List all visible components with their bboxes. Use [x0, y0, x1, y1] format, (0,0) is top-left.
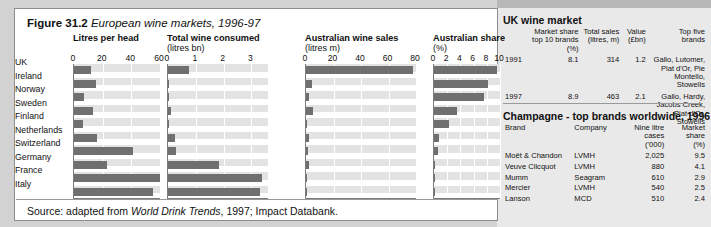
bar: [168, 66, 189, 74]
column-header: Nine litre cases('000): [613, 124, 666, 149]
axis-tick-label: 8: [483, 53, 488, 63]
axis-tick-label: 20: [328, 53, 338, 63]
row-stripe: [434, 153, 500, 159]
gridline: [160, 64, 161, 199]
bar: [306, 107, 313, 115]
figure-title: Figure 31.2 European wine markets, 1996-…: [27, 17, 260, 29]
uk-table-title: UK wine market: [503, 14, 707, 26]
table-row: MercierLVMH5402.5: [503, 182, 707, 193]
cases-cell: 610: [613, 171, 666, 182]
table-header-row: Brand Company Nine litre cases('000)Mark…: [503, 124, 707, 149]
bar: [434, 147, 438, 155]
bar: [434, 80, 488, 88]
row-stripe: [306, 139, 416, 145]
column-header: Market sharetop 10 brands (%): [525, 28, 580, 53]
chart-title: Australian wine sales: [305, 33, 421, 43]
bar: [74, 147, 133, 155]
table-divider: [503, 103, 703, 104]
bar: [168, 80, 169, 88]
bar: [434, 66, 497, 74]
bar: [168, 107, 171, 115]
row-stripe: [434, 180, 500, 186]
row-stripe: [306, 126, 416, 132]
chart-title: Total wine consumed: [167, 33, 273, 43]
bar: [434, 174, 435, 182]
column-header: Value(£bn): [621, 28, 648, 53]
top-strip: [497, 0, 711, 8]
champagne-table-title: Champagne - top brands worldwide, 1996: [503, 110, 707, 122]
brand-cell: Veuve Clicquot: [503, 160, 572, 171]
figure-number: Figure 31.2: [27, 17, 88, 29]
figure-page: Figure 31.2 European wine markets, 1996-…: [0, 0, 711, 227]
company-cell: MCD: [572, 193, 613, 204]
row-stripe: [434, 139, 500, 145]
chart-australian-wine-sales: Australian wine sales(litres m)020406080: [305, 33, 421, 199]
bar: [306, 66, 413, 74]
column-header-line1: Nine litre cases: [615, 124, 664, 141]
company-cell: LVMH: [572, 160, 613, 171]
axis-tick-label: 60: [154, 53, 164, 63]
country-label: Netherlands: [15, 124, 59, 138]
table-row: Moët & ChandonLVMH2,0259.5: [503, 149, 707, 160]
table-row: Veuve ClicquotLVMH8804.1: [503, 160, 707, 171]
plot-area: [433, 64, 500, 199]
share-cell: 9.5: [666, 149, 707, 160]
column-header: Brand: [503, 124, 572, 149]
top-brands-cell: Gallo, Lutomer, Piat d'Or, Pie Montello,…: [648, 53, 707, 90]
source-prefix: Source: adapted from: [27, 205, 131, 217]
row-stripe: [168, 99, 268, 105]
bar: [74, 161, 107, 169]
bar: [74, 93, 84, 101]
source-note: Source: adapted from World Drink Trends,…: [27, 205, 338, 217]
axis-tick-label: 0: [71, 53, 76, 63]
column-header-line2: (£bn): [623, 36, 646, 44]
table-header-row: Market sharetop 10 brands (%)Total sales…: [503, 28, 707, 53]
column-header-line1: Brand: [505, 124, 570, 132]
table-row: LansonMCD5102.4: [503, 193, 707, 204]
brand-cell: Lanson: [503, 193, 572, 204]
chart-subtitle: (litres m): [305, 43, 421, 53]
chart-title: Australian share: [433, 33, 505, 43]
cases-cell: 540: [613, 182, 666, 193]
column-header-line2: top 10 brands (%): [527, 36, 578, 53]
country-label: UK: [15, 56, 59, 70]
bar: [74, 80, 96, 88]
row-stripe: [74, 126, 160, 132]
country-label: Switzerland: [15, 137, 59, 151]
total-sales-cell: 314: [581, 53, 622, 90]
bar: [168, 120, 169, 128]
row-stripe: [306, 112, 416, 118]
bar: [306, 134, 309, 142]
country-label: Germany: [15, 151, 59, 165]
row-stripe: [168, 112, 268, 118]
share-cell: 2.5: [666, 182, 707, 193]
row-stripe: [306, 166, 416, 172]
axis-tick-label: 3: [248, 53, 253, 63]
source-divider: [16, 199, 498, 200]
bar: [306, 93, 309, 101]
bar: [168, 188, 260, 196]
row-stripe: [306, 180, 416, 186]
column-header-line2: [574, 132, 611, 140]
chart-subtitle: (litres bn): [167, 43, 273, 53]
brand-cell: Mercier: [503, 182, 572, 193]
source-suffix: , 1997; Impact Databank.: [221, 205, 338, 217]
x-axis: 0204060: [73, 53, 165, 64]
column-header-line1: Company: [574, 124, 611, 132]
bar: [168, 147, 176, 155]
row-stripe: [168, 139, 268, 145]
country-label-column: UKIrelandNorwaySwedenFinlandNetherlandsS…: [15, 56, 59, 191]
row-stripe: [168, 153, 268, 159]
column-header-line2: [505, 132, 570, 140]
axis-tick-label: 0: [303, 53, 308, 63]
brand-cell: Moët & Chandon: [503, 149, 572, 160]
axis-tick-label: 20: [97, 53, 107, 63]
column-header-line1: Market share: [668, 124, 705, 141]
value-cell: 1.2: [621, 53, 648, 90]
row-stripe: [434, 166, 500, 172]
x-axis: 0246810: [433, 53, 505, 64]
bar: [434, 107, 457, 115]
bar: [74, 174, 160, 182]
axis-tick-label: 60: [383, 53, 393, 63]
bar: [74, 120, 83, 128]
